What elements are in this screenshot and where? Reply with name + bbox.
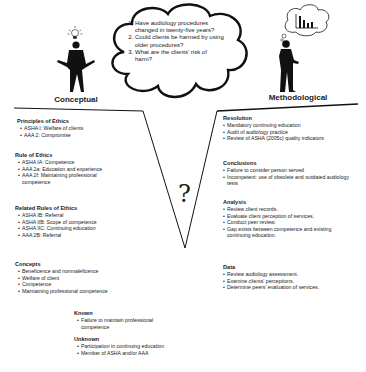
lightbulb-icon <box>68 26 83 39</box>
list-item: AAA 2: Compromise <box>20 132 142 139</box>
list-item: Incompetent: use of obsolete and outdate… <box>223 174 353 187</box>
list-item: AAA 2B: Referral <box>18 232 140 239</box>
section-analysis: Analysis Review client records. Evaluate… <box>223 199 353 239</box>
list-item: Competence <box>18 281 140 288</box>
list-item: Review client records. <box>223 206 353 213</box>
section-title: Data <box>223 264 353 271</box>
list-item: Welfare of client <box>18 275 140 282</box>
section-title: Analysis <box>223 199 353 206</box>
section-conclusions: Conclusions Failure to consider person s… <box>223 160 353 187</box>
list-item: Participation in continuing education <box>77 343 194 350</box>
list-item: Failure to consider person served <box>223 167 353 174</box>
methodological-label: Methodological <box>256 93 340 102</box>
conceptual-person-silhouette <box>57 41 95 92</box>
list-item: Conduct peer review. <box>223 219 353 226</box>
list-item: Gap exists between competence and existi… <box>223 226 353 239</box>
section-unknown: Unknown Participation in continuing educ… <box>74 336 194 356</box>
list-item: Mandatory continuing education <box>223 122 353 129</box>
list-item: Failure to maintain professional compete… <box>77 317 174 330</box>
list-item: ASHA IA: Competence <box>18 159 140 166</box>
list-item: Evaluate client perception of services. <box>223 213 353 220</box>
section-title: Related Rules of Ethics <box>15 205 140 212</box>
question-item: Could clients be harmed by using older p… <box>135 34 225 48</box>
question-item: What are the clients' risk of harm? <box>135 49 225 63</box>
list-item: AAA 2f: Maintaining professional compete… <box>18 172 122 185</box>
list-item: ASHA IB: Referral <box>18 212 140 219</box>
list-item: Beneficence and nonmaleficence <box>18 268 140 275</box>
bar-chart-thought-icon <box>281 5 329 41</box>
list-item: Determine peers' evaluation of services. <box>223 284 353 291</box>
list-item: Examine clients' perceptions. <box>223 278 353 285</box>
section-related-rules-of-ethics: Related Rules of Ethics ASHA IB: Referra… <box>15 205 140 238</box>
section-principles-of-ethics: Principles of Ethics ASHA I: Welfare of … <box>17 118 142 138</box>
list-item: Member of ASHA and/or AAA <box>77 350 194 357</box>
section-title: Concepts <box>15 261 140 268</box>
cloud-questions: Have audiology procedures changed in twe… <box>125 20 225 63</box>
question-mark-symbol: ? <box>178 180 191 208</box>
list-item: ASHA IIC: Continuing education <box>18 225 140 232</box>
section-title: Unknown <box>74 336 194 343</box>
list-item: ASHA I: Welfare of clients <box>20 125 142 132</box>
section-title: Principles of Ethics <box>17 118 142 125</box>
section-title: Conclusions <box>223 160 353 167</box>
section-title: Known <box>74 310 174 317</box>
section-title: Rule of Ethics <box>15 152 140 159</box>
list-item: Audit of audiology practice <box>223 129 353 136</box>
list-item: AAA 2a: Education and experience <box>18 166 140 173</box>
list-item: Review audiology assessment. <box>223 271 353 278</box>
section-resolution: Resolution Mandatory continuing educatio… <box>223 115 353 142</box>
methodological-person-silhouette <box>279 40 299 92</box>
list-item: Maintaining professional competence <box>18 288 140 295</box>
section-title: Resolution <box>223 115 353 122</box>
question-item: Have audiology procedures changed in twe… <box>135 20 225 34</box>
list-item: ASHA IIB: Scope of competence <box>18 219 140 226</box>
list-item: Review of ASHA (2005c) quality indicator… <box>223 135 353 142</box>
section-known: Known Failure to maintain professional c… <box>74 310 174 330</box>
conceptual-label: Conceptual <box>40 95 112 104</box>
section-data: Data Review audiology assessment. Examin… <box>223 264 353 291</box>
section-rule-of-ethics: Rule of Ethics ASHA IA: Competence AAA 2… <box>15 152 140 185</box>
section-concepts: Concepts Beneficence and nonmaleficence … <box>15 261 140 294</box>
